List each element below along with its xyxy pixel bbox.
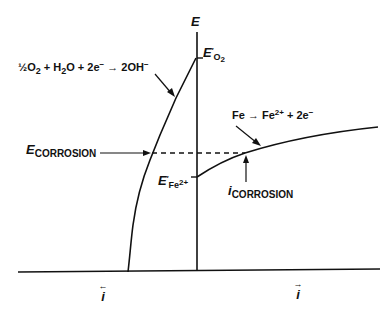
x-axis [18,269,380,272]
eq-arrow-oh: → 2OH [104,61,144,73]
eq-half-o: ½O [18,61,36,73]
y-axis-label: E [191,15,200,28]
fe-reaction-arrowhead [252,138,261,146]
fe-eq-rest: + 2e [284,109,309,121]
e-corrosion-main: E [26,142,35,157]
e-o2-sub2: 2 [221,55,225,64]
x-axis-right-label: → i [292,280,304,301]
e-fe2-main: E [158,173,167,188]
eq-h-sub: 2 [61,66,66,76]
fe-reaction-pointer [236,126,257,143]
eq-e-sup: − [100,60,105,69]
e-fe2-sup: 2+ [179,178,188,187]
eq-plus-h: + H [41,61,61,73]
e-corrosion-arrowhead [143,150,151,156]
eq-oh-sup: − [144,60,149,69]
i-corrosion-sub: CORROSION [232,189,294,200]
e-o2-sub: O [214,52,221,62]
oxygen-reduction-curve [128,58,196,272]
eq-rest: O + 2e [66,61,99,73]
e-corrosion-sub: CORROSION [35,148,97,159]
e-o2-main: E [203,45,212,60]
e-fe2-label: E′Fe2+ [158,174,188,187]
oxygen-reduction-equation: ½O2 + H2O + 2e− → 2OH− [18,62,149,73]
i-corrosion-arrowhead [243,155,249,163]
e-corrosion-label: ECORROSION [26,143,96,156]
fe-eq-lhs: Fe → Fe [232,109,275,121]
x-axis-right-text: i [292,288,304,301]
eq-o-sub: 2 [36,66,41,76]
iron-oxidation-equation: Fe → Fe2+ + 2e− [232,110,313,121]
e-fe2-sub: Fe [169,180,180,190]
x-axis-left-text: i [97,290,109,303]
e-o2-label: E′O2 [203,46,225,59]
x-axis-left-label: ← i [97,282,109,303]
i-corrosion-label: iCORROSION [228,184,293,197]
iron-oxidation-curve [197,127,378,177]
y-axis-label-text: E [191,14,200,29]
fe-eq-e-sup: − [309,108,314,117]
fe-eq-sup: 2+ [275,108,284,117]
